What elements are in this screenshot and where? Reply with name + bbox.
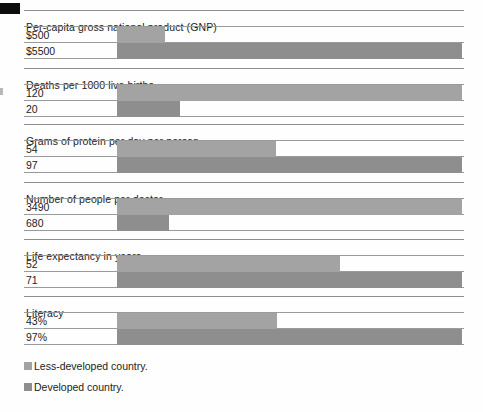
legend-swatch-icon (24, 362, 32, 370)
row-value-label: 20 (26, 103, 38, 116)
row-value-label: 54 (26, 143, 38, 156)
chart-group: Per-capita gross national product (GNP)$… (24, 10, 464, 59)
row-value-label: $500 (26, 29, 49, 42)
bar-dev (117, 329, 462, 345)
group-bottom-rule (24, 116, 464, 117)
legend-item: Less-developed country. (24, 360, 148, 372)
row-value-label: 97% (26, 331, 47, 344)
chart-group: Deaths per 1000 live births12020 (24, 68, 464, 117)
chart-group: Life expectancy in years5271 (24, 239, 464, 288)
chart-row: 680 (24, 215, 464, 231)
bar-dev (117, 43, 462, 59)
chart-group: Number of people per doctor3490680 (24, 182, 464, 231)
chart-row: 71 (24, 272, 464, 288)
bar-dev (117, 157, 462, 173)
chart-row: 20 (24, 101, 464, 117)
row-value-label: 3490 (26, 201, 49, 214)
chart-row: 120 (24, 85, 464, 101)
row-value-label: 120 (26, 87, 44, 100)
group-bottom-rule (24, 230, 464, 231)
chart-row: $500 (24, 27, 464, 43)
legend-label: Less-developed country. (34, 360, 148, 372)
legend-swatch-icon (24, 383, 32, 391)
chart-row: $5500 (24, 43, 464, 59)
chart-row: 52 (24, 256, 464, 272)
row-value-label: 43% (26, 315, 47, 328)
bar-less (117, 199, 462, 215)
row-value-label: $5500 (26, 45, 55, 58)
row-value-label: 71 (26, 274, 38, 287)
group-top-rule (24, 68, 464, 69)
chart-group: Grams of protein per day per person5497 (24, 124, 464, 173)
group-top-rule (24, 10, 464, 11)
chart-group: Literacy43%97% (24, 296, 464, 345)
legend-label: Developed country. (34, 381, 124, 393)
group-top-rule (24, 296, 464, 297)
chart-row: 97% (24, 329, 464, 345)
comparison-bar-chart: Per-capita gross national product (GNP)$… (0, 0, 483, 412)
bar-less (117, 27, 165, 43)
row-value-label: 680 (26, 217, 44, 230)
legend-item: Developed country. (24, 381, 124, 393)
bar-less (117, 85, 462, 101)
bar-dev (117, 272, 462, 288)
group-top-rule (24, 124, 464, 125)
bar-dev (117, 101, 180, 117)
bar-less (117, 313, 277, 329)
group-top-rule (24, 239, 464, 240)
bar-less (117, 141, 276, 157)
group-top-rule (24, 182, 464, 183)
bar-dev (117, 215, 169, 231)
row-value-label: 52 (26, 258, 38, 271)
chart-row: 54 (24, 141, 464, 157)
chart-row: 43% (24, 313, 464, 329)
chart-row: 97 (24, 157, 464, 173)
chart-row: 3490 (24, 199, 464, 215)
row-value-label: 97 (26, 159, 38, 172)
chart-page: Per-capita gross national product (GNP)$… (0, 0, 483, 412)
bar-less (117, 256, 340, 272)
